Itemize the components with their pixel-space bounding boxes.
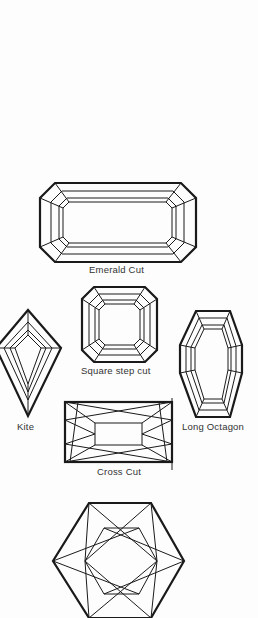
diagram-page: Emerald Cut Kite Square step cut Long Oc…: [0, 0, 258, 618]
square-step-cut-label: Square step cut: [81, 365, 151, 376]
kite-shape: [0, 310, 61, 416]
emerald-cut-shape: [40, 183, 196, 262]
long-octagon-shape: [180, 311, 242, 417]
kite-label: Kite: [17, 421, 34, 432]
cross-cut-shape: [65, 398, 172, 470]
gem-cuts-illustration: [0, 0, 258, 618]
cross-cut-label: Cross Cut: [97, 466, 141, 477]
hexagon-cut-shape: [53, 503, 184, 618]
emerald-cut-label: Emerald Cut: [89, 264, 144, 275]
long-octagon-label: Long Octagon: [182, 421, 244, 432]
square-step-cut-shape: [82, 287, 157, 362]
